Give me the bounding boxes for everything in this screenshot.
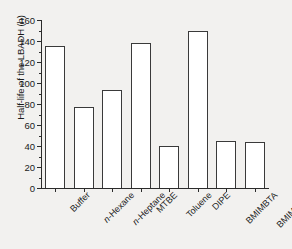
y-tick-mark bbox=[37, 83, 41, 84]
x-tick-label: DIPE bbox=[210, 190, 232, 212]
y-tick-label: 0 bbox=[30, 183, 35, 194]
y-tick-mark bbox=[37, 20, 41, 21]
bar bbox=[45, 46, 65, 188]
bar bbox=[216, 141, 236, 188]
x-axis-tick-labels: Buffern-Hexanen-HeptaneMTBETolueneDIPEBM… bbox=[41, 190, 269, 249]
y-tick-label: 160 bbox=[19, 15, 35, 26]
y-tick-mark bbox=[37, 62, 41, 63]
y-tick-label: 80 bbox=[24, 99, 35, 110]
y-minor-tick bbox=[39, 136, 41, 137]
bar bbox=[102, 90, 122, 188]
x-axis-line bbox=[41, 188, 269, 189]
plot-area: 020406080100120140160 bbox=[41, 20, 269, 188]
x-tick-label: BMIMBTA bbox=[244, 190, 280, 226]
x-tick-label: Buffer bbox=[68, 190, 92, 214]
y-minor-tick bbox=[39, 52, 41, 53]
y-tick-mark bbox=[37, 146, 41, 147]
y-minor-tick bbox=[39, 178, 41, 179]
y-minor-tick bbox=[39, 94, 41, 95]
bar bbox=[74, 107, 94, 188]
y-tick-label: 120 bbox=[19, 57, 35, 68]
y-tick-label: 100 bbox=[19, 78, 35, 89]
y-tick-label: 20 bbox=[24, 162, 35, 173]
y-tick-mark bbox=[37, 41, 41, 42]
y-tick-label: 140 bbox=[19, 36, 35, 47]
y-minor-tick bbox=[39, 31, 41, 32]
y-minor-tick bbox=[39, 157, 41, 158]
y-minor-tick bbox=[39, 73, 41, 74]
y-tick-label: 40 bbox=[24, 141, 35, 152]
bar bbox=[159, 146, 179, 188]
y-minor-tick bbox=[39, 115, 41, 116]
bar bbox=[245, 142, 265, 188]
y-axis-line bbox=[41, 20, 42, 188]
bar bbox=[188, 31, 208, 189]
y-tick-mark bbox=[37, 188, 41, 189]
y-tick-label: 60 bbox=[24, 120, 35, 131]
y-tick-mark bbox=[37, 125, 41, 126]
y-tick-mark bbox=[37, 104, 41, 105]
bar-chart-figure: Half-life of the LBADH (h) 0204060801001… bbox=[0, 0, 292, 249]
y-tick-mark bbox=[37, 167, 41, 168]
bar bbox=[131, 43, 151, 188]
